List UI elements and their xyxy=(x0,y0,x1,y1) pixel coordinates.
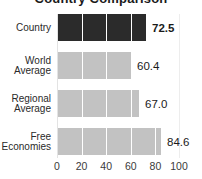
bar-category-label: Free Economies xyxy=(0,131,51,152)
bar-category-label: Regional Average xyxy=(0,93,51,114)
bar-value-label: 67.0 xyxy=(145,98,167,110)
bar-country xyxy=(57,14,146,41)
bar-value-label: 72.5 xyxy=(152,22,174,34)
chart-title: Country Comparison xyxy=(0,0,202,6)
bar-row: World Average 60.4 xyxy=(57,52,180,79)
bar-row: Free Economies 84.6 xyxy=(57,128,180,155)
x-tick-label: 0 xyxy=(54,160,60,172)
bar-category-label: Country xyxy=(0,22,51,33)
x-tick-label: 40 xyxy=(100,160,112,172)
gridline-80 xyxy=(155,14,156,158)
x-tick-label: 100 xyxy=(170,160,188,172)
bar-value-label: 84.6 xyxy=(167,136,189,148)
bar-regional-average xyxy=(57,90,139,117)
x-tick-label: 80 xyxy=(150,160,162,172)
plot-area: Country 72.5 World Average 60.4 Regional… xyxy=(57,14,180,158)
gridline-60 xyxy=(131,14,132,158)
x-axis: 0 20 40 60 80 100 xyxy=(57,160,180,176)
x-tick-label: 20 xyxy=(76,160,88,172)
gridline-40 xyxy=(106,14,107,158)
x-tick-label: 60 xyxy=(125,160,137,172)
bar-chart: Country Comparison Country 72.5 World Av… xyxy=(0,0,202,179)
bar-row: Regional Average 67.0 xyxy=(57,90,180,117)
bar-row: Country 72.5 xyxy=(57,14,180,41)
bar-category-label: World Average xyxy=(0,55,51,76)
gridline-0 xyxy=(57,14,58,158)
bar-free-economies xyxy=(57,128,161,155)
bar-world-average xyxy=(57,52,131,79)
gridline-20 xyxy=(82,14,83,158)
bar-value-label: 60.4 xyxy=(137,60,159,72)
